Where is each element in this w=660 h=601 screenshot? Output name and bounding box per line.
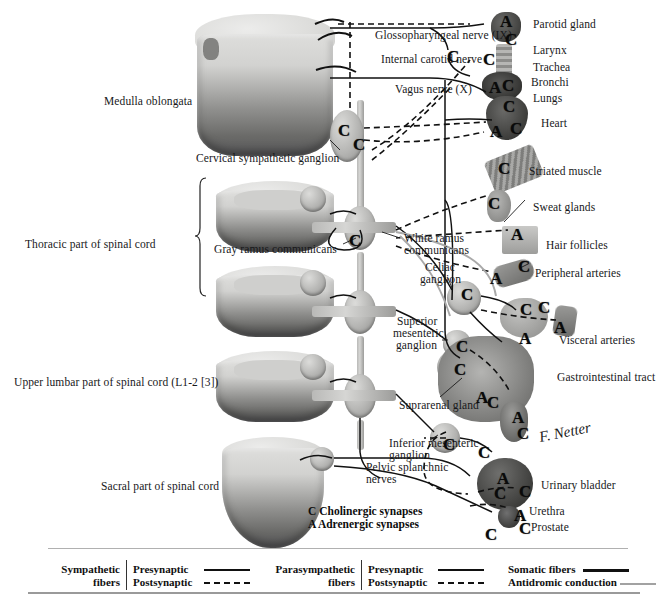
synapse-marker-c: C <box>456 339 468 354</box>
legend-antidromic-conduction-label: Antidromic conduction <box>508 576 617 589</box>
synapse-marker-a: A <box>554 320 566 335</box>
synapse-marker-c: C <box>443 437 455 452</box>
sympathetic-trunk-vertical-4 <box>357 420 364 450</box>
label-hair-follicles: Hair follicles <box>546 239 608 252</box>
synapse-marker-c: C <box>502 78 514 93</box>
synapse-marker-a: A <box>489 80 501 95</box>
synapse-marker-c: C <box>483 52 495 67</box>
label-sweat-glands: Sweat glands <box>533 201 595 214</box>
synapse-marker-c: C <box>485 527 497 542</box>
synapse-marker-c: C <box>538 300 550 315</box>
synapse-marker-a: A <box>512 410 524 425</box>
legend-parasympathetic-brace <box>361 560 363 590</box>
legend-somatic-fibers-label: Somatic fibers <box>508 563 576 576</box>
label-trachea: Trachea <box>533 61 570 74</box>
paravertebral-ganglion-t2 <box>300 270 326 296</box>
synapse-marker-a: A <box>500 14 512 29</box>
legend-parasympathetic-title-line2: fibers <box>255 576 355 589</box>
label-pelvic-splanchnic-line2: nerves <box>366 473 397 486</box>
label-sacral-spinal-cord: Sacral part of spinal cord <box>101 480 219 493</box>
synapse-marker-c: C <box>503 99 515 114</box>
synapse-marker-a: A <box>511 227 523 242</box>
label-cervical-sympathetic-ganglion: Cervical sympathetic ganglion <box>196 152 339 165</box>
legend-parasympathetic-title-line1: Parasympathetic <box>255 563 355 576</box>
legend-sympathetic-brace <box>126 560 128 590</box>
synapse-marker-c: C <box>510 121 522 136</box>
label-striated-muscle: Striated muscle <box>529 165 602 178</box>
synapse-marker-c: C <box>487 395 499 410</box>
label-urinary-bladder: Urinary bladder <box>541 479 616 492</box>
splanchnic-crossbar-3 <box>312 390 396 401</box>
synapse-marker-c: C <box>520 302 532 317</box>
autonomic-nervous-system-figure: Medulla oblongata Thoracic part of spina… <box>0 0 660 601</box>
label-vagus-nerve: Vagus nerve (X) <box>395 83 472 96</box>
legend-parasympathetic-postsynaptic-line <box>438 582 484 584</box>
label-celiac-ganglion-line2: ganglion <box>420 273 461 286</box>
label-thoracic-spinal-cord: Thoracic part of spinal cord <box>25 238 156 251</box>
label-urethra: Urethra <box>529 505 565 518</box>
legend-parasympathetic-presynaptic-label: Presynaptic <box>368 563 423 576</box>
artist-signature: F. Netter <box>538 419 593 446</box>
legend-top-rule <box>48 548 628 549</box>
synapse-marker-c: C <box>488 196 500 211</box>
label-glossopharyngeal-nerve: Glossopharyngeal nerve (IX) <box>375 29 512 42</box>
label-superior-mesenteric-line3: ganglion <box>396 339 437 352</box>
synapse-marker-c: C <box>498 161 510 176</box>
synapse-marker-c: C <box>517 426 529 441</box>
label-heart: Heart <box>541 117 567 130</box>
key-cholinergic-synapses: C Cholinergic synapses <box>308 505 422 519</box>
label-visceral-arteries: Visceral arteries <box>559 334 635 347</box>
label-peripheral-arteries: Peripheral arteries <box>535 267 621 280</box>
label-gastrointestinal-tract: Gastrointestinal tract <box>557 371 655 384</box>
legend-sympathetic-postsynaptic-line <box>204 582 250 584</box>
legend-parasympathetic-postsynaptic-label: Postsynaptic <box>368 576 427 589</box>
legend-sympathetic-presynaptic-line <box>204 569 250 571</box>
label-suprarenal-gland: Suprarenal gland <box>399 399 479 412</box>
paravertebral-ganglion-l1 <box>300 354 326 380</box>
synapse-marker-c: C <box>518 259 530 274</box>
legend-parasympathetic-presynaptic-line <box>438 569 484 571</box>
label-gray-ramus-communicans: Gray ramus communicans <box>214 243 337 256</box>
synapse-marker-c: C <box>447 49 459 64</box>
key-adrenergic-synapses: A Adrenergic synapses <box>308 518 419 532</box>
splanchnic-crossbar-2 <box>312 306 396 317</box>
synapse-marker-c: C <box>494 486 506 501</box>
label-prostate: Prostate <box>531 521 569 534</box>
medulla-nucleus-shadow <box>203 38 219 60</box>
synapse-marker-c: C <box>461 287 473 302</box>
label-larynx: Larynx <box>533 44 567 57</box>
label-parotid-gland: Parotid gland <box>533 18 596 31</box>
synapse-marker-c: C <box>338 123 350 138</box>
synapse-marker-c: C <box>353 137 365 152</box>
label-upper-lumbar-spinal-cord: Upper lumbar part of spinal cord (L1-2 [… <box>14 376 219 389</box>
legend-sympathetic-presynaptic-label: Presynaptic <box>133 563 188 576</box>
label-white-ramus-line2: communicans <box>404 244 469 257</box>
paravertebral-ganglion-t1 <box>300 186 326 212</box>
synapse-marker-a: A <box>490 271 502 286</box>
legend-somatic-fibers-line <box>583 569 629 572</box>
synapse-marker-c: C <box>454 362 466 377</box>
synapse-marker-c: C <box>519 484 531 499</box>
legend-sympathetic-title-line2: fibers <box>38 576 120 589</box>
legend-antidromic-conduction-line <box>620 583 656 585</box>
synapse-marker-c: C <box>478 445 490 460</box>
synapse-marker-a: A <box>490 124 502 139</box>
paravertebral-ganglion-s1 <box>310 447 334 471</box>
label-lungs: Lungs <box>533 92 562 105</box>
synapse-marker-a: A <box>519 331 531 346</box>
synapse-marker-c: C <box>519 521 531 536</box>
label-medulla-oblongata: Medulla oblongata <box>104 95 192 108</box>
legend-sympathetic-postsynaptic-label: Postsynaptic <box>133 576 192 589</box>
legend-bottom-rule <box>28 592 640 594</box>
sacral-cord-body <box>222 448 324 548</box>
label-bronchi: Bronchi <box>531 76 569 89</box>
synapse-marker-c: C <box>349 233 361 248</box>
legend-sympathetic-title-line1: Sympathetic <box>38 563 120 576</box>
label-internal-carotid-nerve: Internal carotid nerve <box>381 53 482 66</box>
synapse-marker-c: C <box>505 32 517 47</box>
